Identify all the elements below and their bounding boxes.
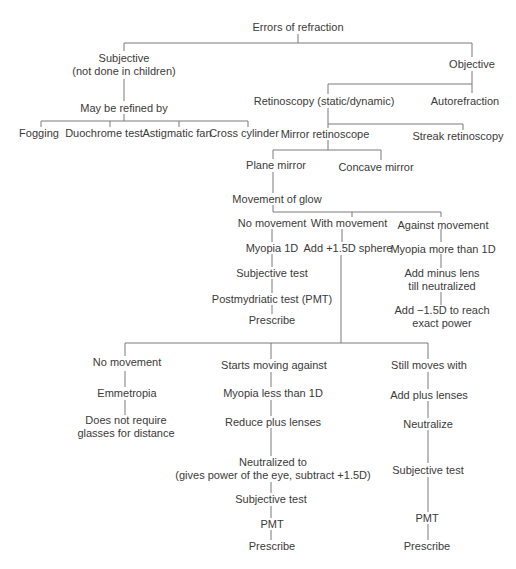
node-neutralized-to: Neutralized to (gives power of the eye, … [175,456,370,482]
node-autorefraction: Autorefraction [431,95,499,108]
node-myopia-1d: Myopia 1D [246,242,299,255]
node-prescribe-3: Prescribe [404,540,450,553]
node-still-moves-with: Still moves with [391,359,467,372]
node-reduce-plus: Reduce plus lenses [225,416,321,429]
node-add-plus-sphere: Add +1.5D sphere [304,242,393,255]
node-movement-of-glow: Movement of glow [232,193,321,206]
node-may-be-refined: May be refined by [80,102,167,115]
node-duochrome: Duochrome test [65,127,143,140]
node-starts-moving-against: Starts moving against [221,359,327,372]
node-neutralize: Neutralize [403,418,453,431]
node-prescribe-1: Prescribe [249,314,295,327]
node-add-minus-lens: Add minus lens till neutralized [404,267,479,293]
node-no-movement: No movement [238,217,306,230]
node-prescribe-2: Prescribe [249,540,295,553]
node-myopia-less-1d: Myopia less than 1D [223,387,323,400]
node-subjective-test-2: Subjective test [235,493,307,506]
node-plane-mirror: Plane mirror [246,159,306,172]
node-subjective: Subjective (not done in children) [72,52,175,78]
node-with-movement: With movement [311,217,387,230]
node-add-plus-lenses: Add plus lenses [390,389,468,402]
node-pmt-full: Postmydriatic test (PMT) [212,293,332,306]
node-add-minus-15: Add −1.5D to reach exact power [394,304,489,330]
node-mirror-retinoscope: Mirror retinoscope [281,128,370,141]
node-myopia-more-1d: Myopia more than 1D [390,243,495,256]
node-cross-cylinder: Cross cylinder [209,127,279,140]
node-streak-retinoscopy: Streak retinoscopy [412,130,503,143]
node-pmt-3: PMT [415,512,438,525]
node-concave-mirror: Concave mirror [338,161,413,174]
node-subjective-test-1: Subjective test [236,267,308,280]
node-emmetropia: Emmetropia [97,387,156,400]
node-against-movement: Against movement [397,219,488,232]
node-retinoscopy: Retinoscopy (static/dynamic) [254,95,395,108]
node-objective: Objective [449,58,495,71]
node-no-movement-2: No movement [93,356,161,369]
node-pmt-2: PMT [260,518,283,531]
node-no-glasses: Does not require glasses for distance [77,414,174,440]
refraction-flowchart: Errors of refraction Subjective (not don… [0,0,516,569]
node-fogging: Fogging [19,127,59,140]
node-subjective-test-3: Subjective test [392,464,464,477]
node-astigmatic-fan: Astigmatic fan [142,127,211,140]
node-root: Errors of refraction [252,21,343,34]
